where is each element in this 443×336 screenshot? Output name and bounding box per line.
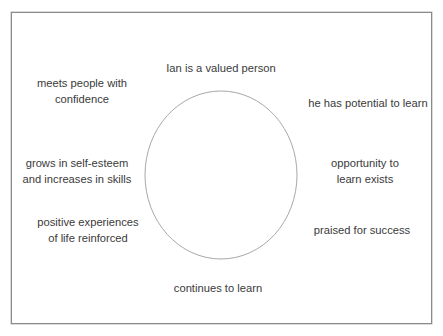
node-positive-experiences: positive experiences of life reinforced (37, 214, 138, 246)
ellipse-shape (145, 91, 297, 259)
node-line: he has potential to learn (308, 95, 427, 111)
node-opportunity-exists: opportunity to learn exists (331, 155, 399, 187)
node-meets-people: meets people with confidence (37, 75, 127, 107)
node-line: opportunity to (331, 155, 399, 171)
node-line: of life reinforced (37, 230, 138, 246)
node-line: Ian is a valued person (166, 60, 275, 76)
node-praised-for-success: praised for success (314, 222, 410, 238)
node-line: learn exists (331, 171, 399, 187)
node-line: praised for success (314, 222, 410, 238)
node-valued-person: Ian is a valued person (166, 60, 275, 76)
node-line: grows in self-esteem (23, 155, 132, 171)
node-grows-in-self-esteem: grows in self-esteem and increases in sk… (23, 155, 132, 187)
node-line: and increases in skills (23, 171, 132, 187)
node-line: confidence (37, 91, 127, 107)
node-continues-to-learn: continues to learn (174, 280, 262, 296)
node-line: meets people with (37, 75, 127, 91)
node-line: continues to learn (174, 280, 262, 296)
node-potential-to-learn: he has potential to learn (308, 95, 427, 111)
node-line: positive experiences (37, 214, 138, 230)
